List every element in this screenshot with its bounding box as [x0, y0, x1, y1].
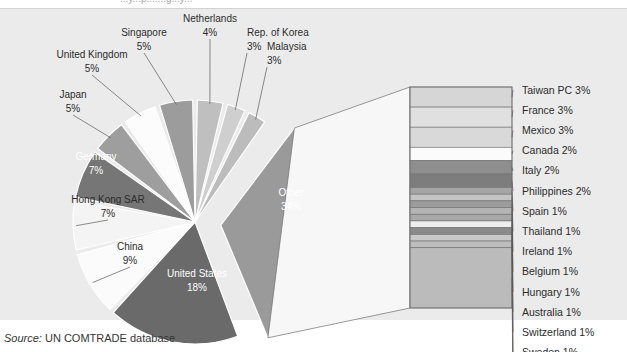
stacked-bar-group	[410, 87, 512, 308]
breakout-label-philippines: Philippines 2%	[522, 185, 591, 197]
source-text: UN COMTRADE database	[42, 332, 175, 344]
source-prefix: Source:	[4, 332, 42, 344]
breakout-label-italy: Italy 2%	[522, 164, 559, 176]
breakout-label-mexico: Mexico 3%	[522, 124, 573, 136]
breakout-segment-thailand[interactable]	[410, 194, 512, 201]
breakout-label-sweden: Sweden 1%	[522, 346, 578, 352]
source-note: Source: UN COMTRADE database	[4, 332, 175, 344]
pie-label-name-hong-kong-sar: Hong Kong SAR	[71, 194, 144, 205]
breakout-segment-mexico[interactable]	[410, 127, 512, 147]
explode-connector-wedge	[268, 87, 410, 338]
pie-label-value-singapore: 5%	[137, 41, 152, 52]
pie-label-name-japan: Japan	[59, 89, 86, 100]
pie-label-value-malaysia: 3%	[267, 55, 282, 66]
pie-label-name-china: China	[117, 241, 144, 252]
pie-label-value-germany: 7%	[89, 165, 104, 176]
pie-label-name-malaysia: Malaysia	[267, 41, 307, 52]
breakout-label-canada: Canada 2%	[522, 144, 577, 156]
breakout-segment-belgium[interactable]	[410, 208, 512, 215]
pie-label-value-japan: 5%	[66, 103, 81, 114]
pie-label-value-united-states: 18%	[187, 282, 207, 293]
breakout-label-belgium: Belgium 1%	[522, 265, 578, 277]
breakout-segment-switzerland[interactable]	[410, 228, 512, 235]
pie-label-name-other: Other	[278, 187, 304, 198]
breakout-label-hungary: Hungary 1%	[522, 286, 580, 298]
pie-label-name-united-kingdom: United Kingdom	[56, 49, 127, 60]
breakout-segment-spain[interactable]	[410, 187, 512, 194]
breakout-label-switzerland: Switzerland 1%	[522, 326, 594, 338]
pie-label-name-netherlands: Netherlands	[183, 13, 237, 24]
pie-leader-united-kingdom	[92, 75, 141, 116]
pie-label-value-china: 9%	[123, 255, 138, 266]
pie-label-value-netherlands: 4%	[203, 27, 218, 38]
pie-label-value-united-kingdom: 5%	[85, 63, 100, 74]
pie-label-value-rep-of-korea: 3%	[247, 41, 262, 52]
breakout-segment-taiwan-pc[interactable]	[410, 87, 512, 107]
breakout-segment-rest-of-the-world[interactable]	[410, 248, 512, 308]
pie-leader-rep-of-korea	[235, 53, 247, 110]
pie-leader-malaysia	[256, 67, 267, 120]
pie-label-name-united-states: United States	[167, 268, 227, 279]
breakout-label-spain: Spain 1%	[522, 205, 567, 217]
pie-label-name-rep-of-korea: Rep. of Korea	[247, 27, 309, 38]
breakout-segment-ireland[interactable]	[410, 201, 512, 208]
chart-figure: ...y...p.......g...y... Taiwan PC 3%Fran…	[0, 0, 627, 352]
breakout-segment-italy[interactable]	[410, 161, 512, 174]
breakout-segment-canada[interactable]	[410, 147, 512, 160]
breakout-label-thailand: Thailand 1%	[522, 225, 580, 237]
breakout-segment-australia[interactable]	[410, 221, 512, 228]
breakout-label-australia: Australia 1%	[522, 306, 581, 318]
breakout-label-france: France 3%	[522, 104, 573, 116]
pie-label-value-other: 34%	[281, 201, 301, 212]
pie-leader-japan	[73, 115, 111, 138]
breakout-segment-hungary[interactable]	[410, 214, 512, 221]
breakout-segment-france[interactable]	[410, 107, 512, 127]
breakout-segment-sweden[interactable]	[410, 234, 512, 241]
breakout-label-taiwan-pc: Taiwan PC 3%	[522, 84, 590, 96]
breakout-label-group: Taiwan PC 3%France 3%Mexico 3%Canada 2%I…	[522, 84, 619, 352]
breakout-segment-austria[interactable]	[410, 241, 512, 248]
breakout-label-ireland: Ireland 1%	[522, 245, 572, 257]
pie-label-value-hong-kong-sar: 7%	[101, 208, 116, 219]
pie-chart-canvas: Taiwan PC 3%France 3%Mexico 3%Canada 2%I…	[0, 0, 627, 352]
pie-leader-singapore	[144, 53, 176, 105]
explode-connector-group	[268, 87, 410, 338]
breakout-segment-philippines[interactable]	[410, 174, 512, 187]
pie-label-name-germany: Germany	[75, 151, 116, 162]
pie-label-name-singapore: Singapore	[121, 27, 167, 38]
